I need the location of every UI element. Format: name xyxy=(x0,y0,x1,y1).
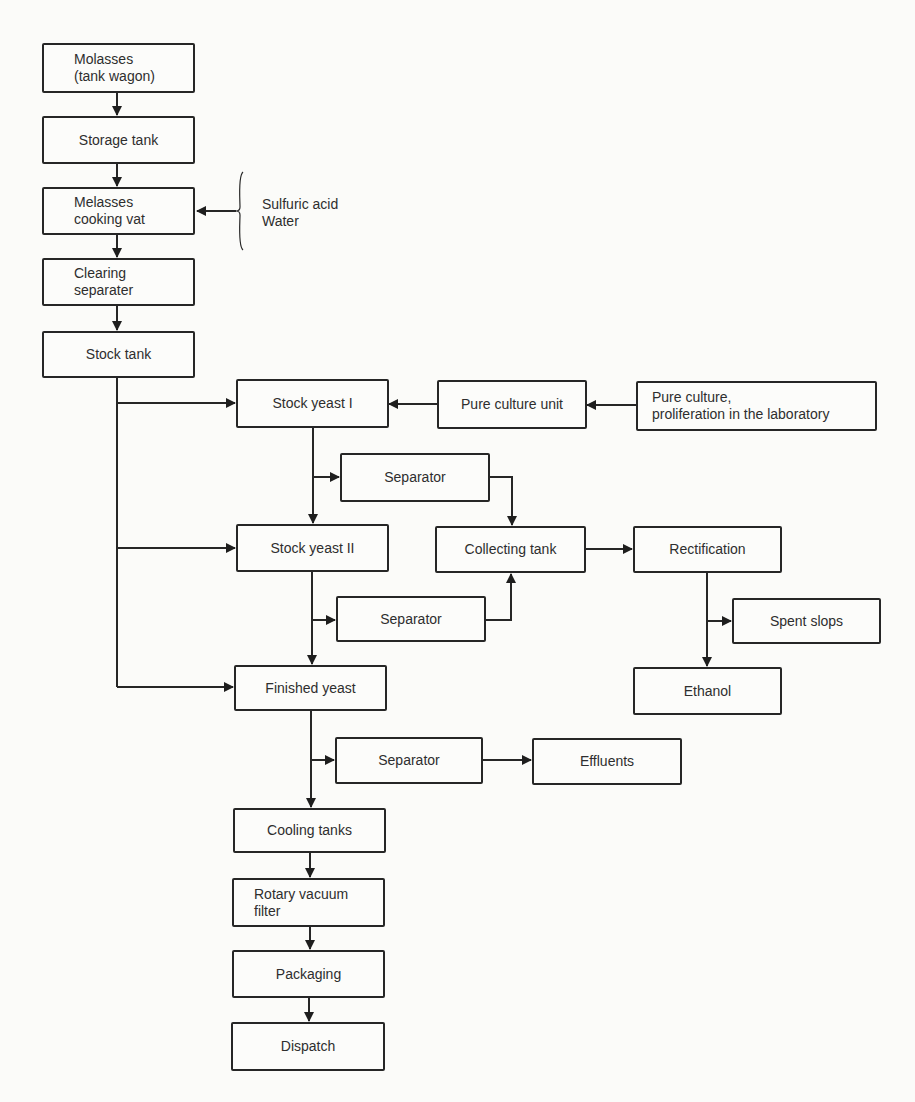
node-finished-yeast: Finished yeast xyxy=(234,665,387,711)
node-label: Dispatch xyxy=(281,1038,335,1055)
node-label: Collecting tank xyxy=(465,541,557,558)
node-label: Stock tank xyxy=(86,346,151,363)
node-collecting-tank: Collecting tank xyxy=(435,526,586,573)
node-ethanol: Ethanol xyxy=(633,667,782,715)
node-storage-tank: Storage tank xyxy=(42,116,195,164)
node-dispatch: Dispatch xyxy=(231,1022,385,1071)
node-label: Molasses (tank wagon) xyxy=(74,51,155,85)
node-molasses: Molasses (tank wagon) xyxy=(42,43,195,93)
node-label: Spent slops xyxy=(770,613,843,630)
node-label: Separator xyxy=(380,611,441,628)
node-separator-3: Separator xyxy=(335,737,483,784)
node-label: Stock yeast I xyxy=(272,395,352,412)
node-label: Pure culture unit xyxy=(461,396,563,413)
node-packaging: Packaging xyxy=(232,950,385,998)
node-label: Storage tank xyxy=(79,132,158,149)
node-label: Separator xyxy=(378,752,439,769)
node-effluents: Effluents xyxy=(532,738,682,785)
node-cooling-tanks: Cooling tanks xyxy=(233,808,386,853)
yeast-production-flowchart: Molasses (tank wagon) Storage tank Melas… xyxy=(0,0,915,1102)
node-rectification: Rectification xyxy=(633,526,782,573)
node-label: Clearing separater xyxy=(74,265,133,299)
node-cooking-vat: Melasses cooking vat xyxy=(42,187,195,235)
node-label: Melasses cooking vat xyxy=(74,194,145,228)
node-label: Rectification xyxy=(669,541,745,558)
node-stock-yeast-2: Stock yeast II xyxy=(236,524,389,572)
node-pure-culture-lab: Pure culture, proliferation in the labor… xyxy=(636,381,877,431)
node-label: Stock yeast II xyxy=(270,540,354,557)
node-separator-2: Separator xyxy=(336,596,486,642)
node-label: Cooling tanks xyxy=(267,822,352,839)
node-clearing-separater: Clearing separater xyxy=(42,258,195,306)
node-label: Pure culture, proliferation in the labor… xyxy=(652,389,829,423)
node-stock-yeast-1: Stock yeast I xyxy=(236,379,389,428)
cooking-vat-inputs-label: Sulfuric acid Water xyxy=(262,196,338,230)
node-separator-1: Separator xyxy=(340,453,490,502)
node-spent-slops: Spent slops xyxy=(732,598,881,644)
node-label: Finished yeast xyxy=(265,680,355,697)
node-rotary-vacuum-filter: Rotary vacuum filter xyxy=(232,878,385,927)
node-label: Rotary vacuum filter xyxy=(254,886,348,920)
node-stock-tank: Stock tank xyxy=(42,331,195,378)
node-label: Separator xyxy=(384,469,445,486)
node-label: Effluents xyxy=(580,753,634,770)
node-label: Ethanol xyxy=(684,683,731,700)
node-pure-culture-unit: Pure culture unit xyxy=(437,380,587,429)
node-label: Packaging xyxy=(276,966,341,983)
